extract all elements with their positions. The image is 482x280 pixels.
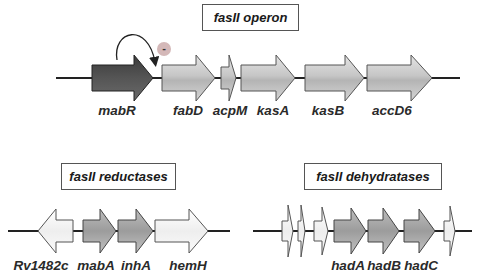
gene-arrow-mabA: [83, 209, 116, 253]
gene-arrow-accD6: [367, 55, 432, 101]
gene-label-accD6: accD6: [372, 103, 412, 118]
gene-arrow-fabD: [162, 55, 215, 101]
gene-arrow-hadB: [368, 208, 399, 254]
gene-diagram: - mabR fabD acpM kasA kasB accD6 Rv1482c…: [0, 0, 482, 280]
gene-label-mabA: mabA: [77, 258, 115, 273]
gene-arrow-kasB: [305, 55, 364, 101]
gene-label-kasB: kasB: [312, 103, 345, 118]
operon-panel: - mabR fabD acpM kasA kasB accD6: [56, 35, 460, 118]
dehydratases-panel: hadA hadB hadC: [253, 205, 472, 273]
gene-arrow-inhA: [118, 209, 153, 253]
gene-label-kasA: kasA: [257, 103, 289, 118]
gene-label-hemH: hemH: [169, 258, 207, 273]
gene-label-fabD: fabD: [173, 103, 203, 118]
gene-label-hadC: hadC: [404, 258, 438, 273]
gene-label-mabR: mabR: [98, 103, 136, 118]
gene-arrow-Rv1482c: [38, 209, 73, 253]
gene-arrow-mabR: [92, 55, 153, 101]
gene-label-inhA: inhA: [121, 258, 151, 273]
gene-label-Rv1482c: Rv1482c: [14, 258, 69, 273]
reductases-panel: Rv1482c mabA inhA hemH: [8, 209, 230, 273]
gene-arrow-kasA: [241, 55, 295, 101]
gene-arrow-hadC: [404, 209, 435, 253]
gene-arrow-unlabeled-3: [314, 207, 328, 255]
gene-label-acpM: acpM: [213, 103, 248, 118]
gene-arrow-unlabeled-2: [298, 205, 305, 257]
gene-arrow-acpM: [221, 55, 236, 101]
gene-arrow-hadA: [334, 208, 366, 254]
gene-arrow-unlabeled-4: [444, 206, 455, 256]
gene-label-hadA: hadA: [331, 258, 365, 273]
gene-arrow-hemH: [155, 209, 208, 253]
gene-arrow-unlabeled-1: [282, 205, 293, 257]
gene-label-hadB: hadB: [367, 258, 401, 273]
inhibition-sign: -: [162, 42, 166, 54]
